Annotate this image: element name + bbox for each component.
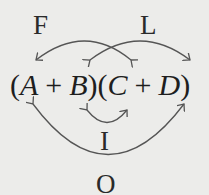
plus-1: + [45, 68, 62, 101]
label-inner: I [100, 128, 109, 155]
close-paren-2: ) [180, 68, 190, 101]
term-b: B [69, 68, 87, 101]
label-first: F [33, 12, 48, 39]
term-d: D [159, 68, 181, 101]
first-arrow [36, 41, 131, 60]
close-paren-1: ) [88, 68, 98, 101]
label-outer: O [96, 171, 116, 195]
label-last: L [140, 12, 157, 39]
last-arrow [90, 41, 190, 60]
inner-arrow [87, 110, 127, 123]
plus-2: + [135, 68, 152, 101]
term-c: C [108, 68, 128, 101]
term-a: A [20, 68, 38, 101]
open-paren-2: ( [98, 68, 108, 101]
foil-expression: (A+B)(C+D) [10, 68, 190, 102]
open-paren-1: ( [10, 68, 20, 101]
